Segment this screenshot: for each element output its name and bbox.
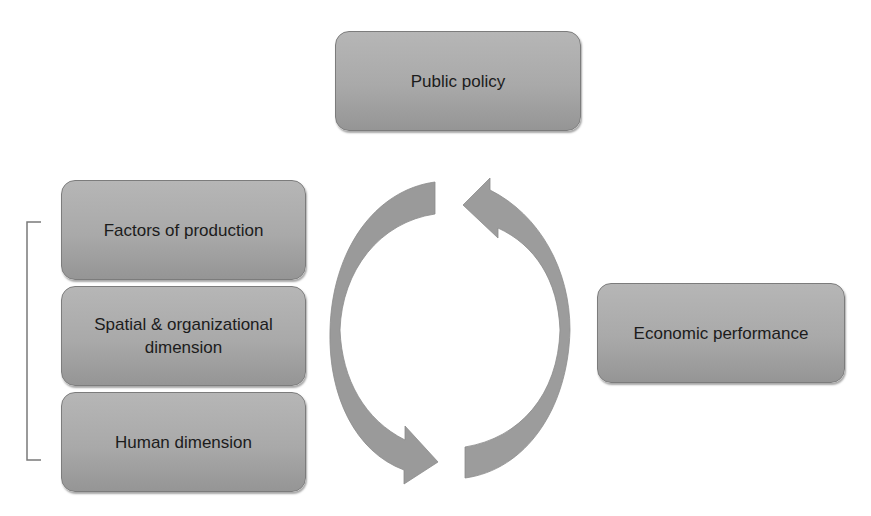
spatial-organizational-node: Spatial & organizational dimension xyxy=(61,286,306,386)
human-dimension-label: Human dimension xyxy=(115,431,252,454)
factors-of-production-label: Factors of production xyxy=(104,219,264,242)
factors-of-production-node: Factors of production xyxy=(61,180,306,280)
group-bracket xyxy=(27,222,41,460)
public-policy-label: Public policy xyxy=(411,70,506,93)
spatial-organizational-label: Spatial & organizational dimension xyxy=(68,313,299,359)
economic-performance-label: Economic performance xyxy=(634,322,809,345)
human-dimension-node: Human dimension xyxy=(61,392,306,492)
public-policy-node: Public policy xyxy=(335,31,581,131)
right-cycle-arrow xyxy=(463,178,570,478)
left-cycle-arrow xyxy=(330,182,438,484)
economic-performance-node: Economic performance xyxy=(597,283,845,383)
